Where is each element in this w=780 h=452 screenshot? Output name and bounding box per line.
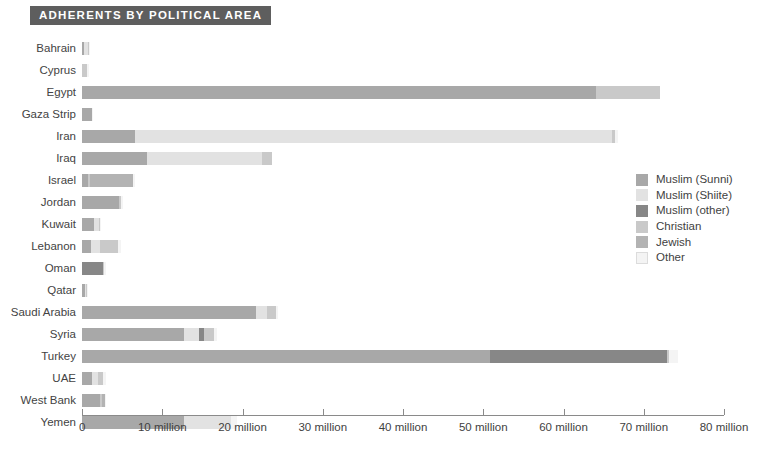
bar-row: Syria bbox=[0, 328, 780, 350]
stacked-bar bbox=[82, 328, 217, 341]
category-label: Jordan bbox=[0, 196, 76, 209]
stacked-bar bbox=[82, 196, 123, 209]
axis-tick-label: 10 million bbox=[138, 421, 187, 433]
category-label: UAE bbox=[0, 372, 76, 385]
legend-item: Christian bbox=[636, 219, 733, 235]
legend-swatch bbox=[636, 174, 648, 186]
bar-row: Iran bbox=[0, 130, 780, 152]
axis-tick-label: 70 million bbox=[619, 421, 668, 433]
bar-segment bbox=[147, 152, 262, 165]
bar-segment bbox=[214, 328, 216, 341]
legend-item: Jewish bbox=[636, 234, 733, 250]
stacked-bar bbox=[82, 262, 106, 275]
bar-segment bbox=[82, 108, 92, 121]
bar-segment bbox=[204, 328, 214, 341]
bar-segment bbox=[82, 262, 103, 275]
category-label: Turkey bbox=[0, 350, 76, 363]
axis-tick-label: 80 million bbox=[700, 421, 749, 433]
legend-item: Muslim (Sunni) bbox=[636, 172, 733, 188]
axis-tick bbox=[724, 409, 725, 415]
bar-segment bbox=[82, 372, 92, 385]
bar-row: Qatar bbox=[0, 284, 780, 306]
axis-tick-label: 40 million bbox=[379, 421, 428, 433]
category-label: Syria bbox=[0, 328, 76, 341]
stacked-bar bbox=[82, 64, 89, 77]
bar-segment bbox=[615, 130, 618, 143]
legend-swatch bbox=[636, 236, 648, 248]
stacked-bar bbox=[82, 130, 618, 143]
bar-row: Egypt bbox=[0, 86, 780, 108]
legend-label: Muslim (Sunni) bbox=[656, 173, 733, 186]
axis-tick bbox=[82, 409, 83, 415]
stacked-bar bbox=[82, 218, 101, 231]
bar-row: Iraq bbox=[0, 152, 780, 174]
bar-segment bbox=[82, 350, 490, 363]
bar-segment bbox=[82, 218, 94, 231]
legend-item: Muslim (Shiite) bbox=[636, 188, 733, 204]
category-label: Cyprus bbox=[0, 64, 76, 77]
legend: Muslim (Sunni)Muslim (Shiite)Muslim (oth… bbox=[636, 172, 733, 266]
category-label: Iran bbox=[0, 130, 76, 143]
stacked-bar bbox=[82, 350, 678, 363]
legend-item: Muslim (other) bbox=[636, 203, 733, 219]
x-axis-line bbox=[82, 415, 724, 416]
axis-tick-label: 0 bbox=[79, 421, 85, 433]
category-label: Israel bbox=[0, 174, 76, 187]
bar-row: Turkey bbox=[0, 350, 780, 372]
legend-swatch bbox=[636, 205, 648, 217]
bar-segment bbox=[669, 350, 679, 363]
bar-segment bbox=[256, 306, 266, 319]
axis-tick-label: 60 million bbox=[539, 421, 588, 433]
stacked-bar bbox=[82, 372, 106, 385]
category-label: Oman bbox=[0, 262, 76, 275]
category-label: Yemen bbox=[0, 416, 76, 429]
bar-segment bbox=[100, 240, 118, 253]
axis-tick bbox=[403, 409, 404, 415]
bar-segment bbox=[135, 130, 612, 143]
bar-segment bbox=[100, 218, 101, 231]
axis-tick-label: 20 million bbox=[218, 421, 267, 433]
category-label: Saudi Arabia bbox=[0, 306, 76, 319]
bar-segment bbox=[82, 328, 184, 341]
bar-segment bbox=[596, 86, 660, 99]
bar-segment bbox=[82, 196, 119, 209]
bar-segment bbox=[105, 394, 106, 407]
stacked-bar bbox=[82, 240, 121, 253]
chart-container: ADHERENTS BY POLITICAL AREA BahrainCypru… bbox=[0, 0, 780, 452]
bar-segment bbox=[121, 196, 122, 209]
stacked-bar bbox=[82, 284, 88, 297]
bar-segment bbox=[133, 174, 134, 187]
bar-segment bbox=[267, 306, 277, 319]
axis-tick bbox=[644, 409, 645, 415]
category-label: West Bank bbox=[0, 394, 76, 407]
stacked-bar bbox=[82, 152, 272, 165]
axis-tick bbox=[162, 409, 163, 415]
legend-swatch bbox=[636, 252, 648, 264]
bar-row: Cyprus bbox=[0, 64, 780, 86]
chart-title-banner: ADHERENTS BY POLITICAL AREA bbox=[30, 6, 271, 25]
bar-segment bbox=[103, 372, 106, 385]
bar-segment bbox=[104, 262, 106, 275]
category-label: Qatar bbox=[0, 284, 76, 297]
legend-label: Muslim (other) bbox=[656, 204, 729, 217]
axis-tick bbox=[483, 409, 484, 415]
bar-segment bbox=[90, 174, 133, 187]
stacked-bar bbox=[82, 174, 135, 187]
bar-segment bbox=[184, 328, 199, 341]
bar-row: Gaza Strip bbox=[0, 108, 780, 130]
bar-segment bbox=[276, 306, 278, 319]
legend-label: Other bbox=[656, 251, 685, 264]
stacked-bar bbox=[82, 394, 106, 407]
bar-segment bbox=[262, 152, 272, 165]
bar-row: Bahrain bbox=[0, 42, 780, 64]
legend-swatch bbox=[636, 189, 648, 201]
category-label: Kuwait bbox=[0, 218, 76, 231]
axis-tick bbox=[323, 409, 324, 415]
legend-item: Other bbox=[636, 250, 733, 266]
axis-tick-label: 30 million bbox=[298, 421, 347, 433]
stacked-bar bbox=[82, 108, 93, 121]
stacked-bar bbox=[82, 86, 660, 99]
bar-segment bbox=[89, 42, 90, 55]
bar-segment bbox=[82, 394, 100, 407]
bar-segment bbox=[82, 306, 256, 319]
